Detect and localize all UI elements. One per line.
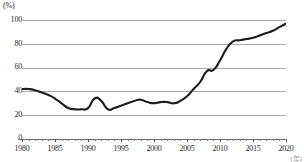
x-tick-label-2005: 2005 (179, 144, 194, 153)
x-tick-label-2020: 2020 (278, 144, 293, 153)
plot-area (22, 20, 286, 139)
x-tick-1988 (75, 139, 76, 141)
y-tick-label-40: 40 (2, 87, 22, 95)
x-tick-1985 (55, 139, 56, 142)
x-tick-label-2010: 2010 (212, 144, 227, 153)
x-tick-label-1985: 1985 (47, 144, 62, 153)
y-tick-label-0: 0 (2, 134, 22, 142)
x-tick-2016 (260, 139, 261, 141)
x-tick-label-1980: 1980 (14, 144, 29, 153)
x-tick-2014 (246, 139, 247, 141)
x-tick-2004 (180, 139, 181, 141)
x-tick-2012 (233, 139, 234, 141)
x-tick-2008 (207, 139, 208, 141)
x-tick-2001 (161, 139, 162, 141)
x-tick-1999 (147, 139, 148, 141)
x-tick-2007 (200, 139, 201, 141)
x-tick-1992 (101, 139, 102, 141)
x-tick-2011 (227, 139, 228, 141)
x-tick-1991 (95, 139, 96, 141)
x-tick-2019 (279, 139, 280, 141)
x-tick-2018 (273, 139, 274, 141)
y-tick-label-80: 80 (2, 40, 22, 48)
x-tick-2005 (187, 139, 188, 142)
series-layer (22, 20, 286, 139)
x-tick-1990 (88, 139, 89, 142)
x-tick-1997 (134, 139, 135, 141)
x-tick-2009 (213, 139, 214, 141)
x-tick-1996 (128, 139, 129, 141)
x-tick-1986 (62, 139, 63, 141)
x-tick-2003 (174, 139, 175, 141)
y-tick-label-100: 100 (2, 16, 22, 24)
x-tick-label-2015: 2015 (245, 144, 260, 153)
x-axis-ticks (22, 139, 286, 143)
x-tick-1983 (42, 139, 43, 141)
x-tick-1980 (22, 139, 23, 142)
x-tick-2013 (240, 139, 241, 141)
y-axis-tick-labels: 100 80 60 40 20 0 (0, 0, 22, 162)
x-tick-2002 (167, 139, 168, 141)
y-tick-label-60: 60 (2, 63, 22, 71)
x-tick-2020 (286, 139, 287, 142)
x-tick-1987 (68, 139, 69, 141)
x-tick-1998 (141, 139, 142, 141)
x-tick-label-1990: 1990 (80, 144, 95, 153)
y-tick-label-20: 20 (2, 111, 22, 119)
x-tick-1993 (108, 139, 109, 141)
x-tick-2017 (266, 139, 267, 141)
x-tick-1995 (121, 139, 122, 142)
x-tick-2000 (154, 139, 155, 142)
x-tick-1994 (114, 139, 115, 141)
x-tick-2015 (253, 139, 254, 142)
x-tick-2006 (194, 139, 195, 141)
x-tick-1982 (35, 139, 36, 141)
x-tick-label-1995: 1995 (113, 144, 128, 153)
x-axis-unit-label: (年) (290, 155, 302, 162)
x-tick-1981 (29, 139, 30, 141)
x-tick-1989 (81, 139, 82, 141)
x-tick-1984 (48, 139, 49, 141)
line-chart: (%) 100 80 60 40 20 0 198019851990199520… (0, 0, 304, 162)
x-tick-label-2000: 2000 (146, 144, 161, 153)
x-tick-2010 (220, 139, 221, 142)
series-line-1 (22, 24, 286, 110)
